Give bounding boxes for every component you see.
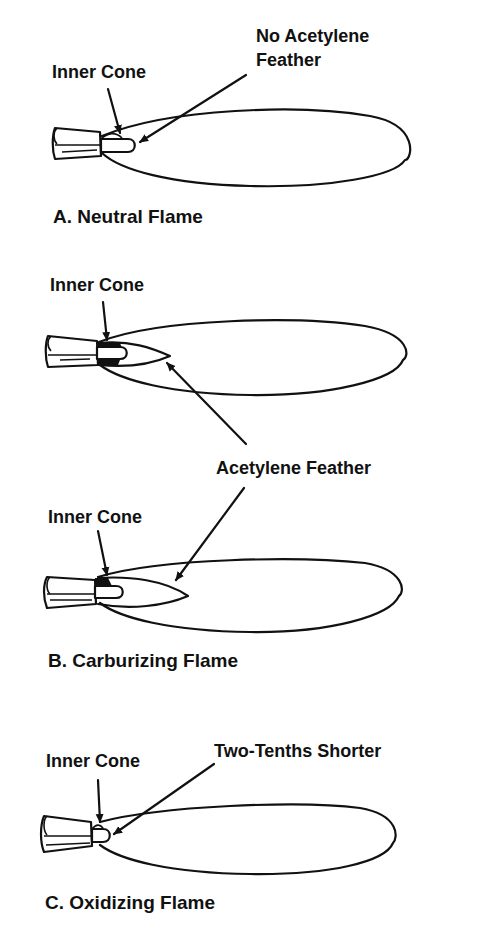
outer-flame-envelope: [98, 559, 402, 632]
torch-tip: [44, 577, 96, 608]
inner-cone: [92, 829, 110, 842]
outer-flame-envelope: [102, 110, 410, 187]
flame-types-diagram: Inner Cone No Acetylene Feather A. Neutr…: [0, 0, 479, 938]
arrow-inner-cone: [108, 89, 120, 133]
panel-neutral-flame: Inner Cone No Acetylene Feather A. Neutr…: [52, 26, 410, 227]
label-inner-cone: Inner Cone: [48, 507, 142, 527]
inner-cone: [97, 347, 127, 359]
label-inner-cone: Inner Cone: [50, 275, 144, 295]
arrow-inner-cone: [98, 531, 107, 575]
label-inner-cone: Inner Cone: [46, 751, 140, 771]
inner-cone: [101, 139, 135, 152]
arrow-two-tenths-shorter: [114, 764, 214, 834]
outer-flame-envelope: [99, 320, 406, 395]
inner-cone: [95, 586, 123, 598]
caption-carburizing-flame: B. Carburizing Flame: [48, 650, 238, 671]
panel-carburizing-flame-top: Inner Cone: [46, 275, 407, 444]
label-two-tenths-shorter: Two-Tenths Shorter: [214, 741, 381, 761]
arrow-inner-cone: [103, 302, 107, 340]
arrow-acetylene-feather-bottom: [176, 488, 244, 580]
label-feather: Feather: [256, 50, 321, 70]
caption-oxidizing-flame: C. Oxidizing Flame: [45, 892, 215, 913]
label-inner-cone: Inner Cone: [52, 62, 146, 82]
panel-carburizing-flame-bottom: Inner Cone B. Carburizing Flame: [44, 488, 402, 671]
torch-tip: [41, 816, 92, 852]
arrow-inner-cone: [98, 780, 100, 822]
panel-oxidizing-flame: Inner Cone Two-Tenths Shorter C. Oxidizi…: [41, 741, 396, 913]
arrow-acetylene-feather-top: [167, 363, 246, 444]
outer-flame-envelope: [100, 804, 396, 874]
label-no-acetylene: No Acetylene: [256, 26, 369, 46]
torch-tip: [46, 336, 98, 367]
arrow-no-feather: [140, 75, 246, 142]
label-acetylene-feather: Acetylene Feather: [216, 458, 371, 478]
torch-tip: [53, 128, 101, 159]
caption-neutral-flame: A. Neutral Flame: [53, 206, 203, 227]
